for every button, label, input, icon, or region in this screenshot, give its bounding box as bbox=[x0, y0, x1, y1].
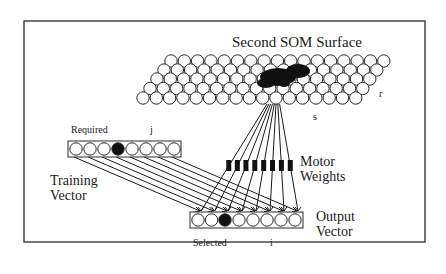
som-node bbox=[310, 92, 322, 104]
motor-weight-block bbox=[279, 160, 284, 171]
label-motor-weights-2: Weights bbox=[300, 169, 346, 184]
training-node bbox=[126, 143, 138, 155]
label-i: i bbox=[270, 237, 273, 248]
label-j: j bbox=[150, 124, 153, 135]
output-node bbox=[289, 214, 301, 226]
motor-weight-block bbox=[226, 160, 231, 171]
diagram-title: Second SOM Surface bbox=[232, 34, 362, 51]
training-node bbox=[112, 143, 124, 155]
label-output-vector-1: Output bbox=[316, 209, 355, 224]
motor-weights bbox=[226, 160, 293, 171]
label-training-vector-2: Vector bbox=[50, 188, 87, 203]
training-node bbox=[154, 143, 166, 155]
output-node bbox=[261, 214, 273, 226]
som-node bbox=[150, 92, 162, 104]
training-node bbox=[84, 143, 96, 155]
som-node bbox=[257, 92, 269, 104]
som-node bbox=[137, 92, 149, 104]
motor-weight-block bbox=[235, 160, 240, 171]
output-node bbox=[192, 214, 204, 226]
label-training-vector-1: Training bbox=[50, 173, 98, 188]
output-node bbox=[247, 214, 259, 226]
training-node bbox=[168, 143, 180, 155]
motor-weight-connections bbox=[198, 104, 301, 211]
label-r: r bbox=[379, 88, 382, 99]
output-vector bbox=[190, 212, 303, 228]
output-node bbox=[219, 214, 231, 226]
som-node bbox=[323, 92, 335, 104]
motor-weight-block bbox=[261, 160, 266, 171]
som-node bbox=[203, 92, 215, 104]
som-node bbox=[336, 92, 348, 104]
output-node bbox=[205, 214, 217, 226]
training-vector bbox=[68, 141, 181, 157]
label-required: Required bbox=[71, 124, 108, 135]
label-s: s bbox=[313, 111, 317, 122]
som-node bbox=[177, 92, 189, 104]
som-node bbox=[283, 92, 295, 104]
som-node bbox=[296, 92, 308, 104]
label-selected: Selected bbox=[193, 237, 227, 248]
label-output-vector-2: Vector bbox=[316, 224, 353, 239]
motor-weight-block bbox=[270, 160, 275, 171]
som-node bbox=[350, 92, 362, 104]
training-node bbox=[140, 143, 152, 155]
som-node bbox=[243, 92, 255, 104]
som-diagram bbox=[0, 0, 446, 274]
training-node bbox=[70, 143, 82, 155]
som-node bbox=[217, 92, 229, 104]
motor-weight-block bbox=[288, 160, 293, 171]
som-node bbox=[270, 92, 282, 104]
som-node bbox=[190, 92, 202, 104]
motor-weight-block bbox=[252, 160, 257, 171]
output-node bbox=[275, 214, 287, 226]
som-node bbox=[230, 92, 242, 104]
som-node bbox=[163, 92, 175, 104]
output-node bbox=[233, 214, 245, 226]
training-node bbox=[98, 143, 110, 155]
motor-weight-block bbox=[243, 160, 248, 171]
label-motor-weights-1: Motor bbox=[300, 154, 335, 169]
